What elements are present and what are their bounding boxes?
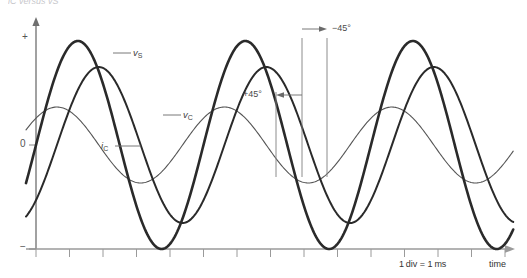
waveform-figure: i̅C versus v̅S bbox=[0, 0, 527, 278]
y-axis-arrowhead bbox=[32, 17, 39, 26]
lead-angle-label: +45° bbox=[243, 90, 262, 99]
y-axis-zero-label: 0 bbox=[20, 139, 26, 149]
curve-label-vc: vC bbox=[183, 110, 193, 120]
waveform-plot bbox=[0, 0, 527, 278]
y-axis-negative-label: − bbox=[20, 242, 26, 252]
axis-group bbox=[26, 17, 515, 257]
curve-capacitor-current bbox=[26, 107, 513, 183]
x-tick-marks bbox=[36, 249, 505, 257]
lag-angle-label: −45° bbox=[332, 24, 351, 33]
x-axis-label: time bbox=[489, 260, 506, 269]
y-axis-positive-label: + bbox=[22, 32, 28, 42]
lag-dimension-arrow bbox=[302, 26, 327, 32]
x-axis-arrowhead bbox=[505, 245, 515, 253]
time-scale-note: 1 div = 1 ms bbox=[399, 260, 446, 269]
curve-label-ic: iC bbox=[101, 141, 108, 151]
phase-marker-lines bbox=[276, 38, 327, 177]
curve-label-vs: vS bbox=[133, 48, 142, 58]
